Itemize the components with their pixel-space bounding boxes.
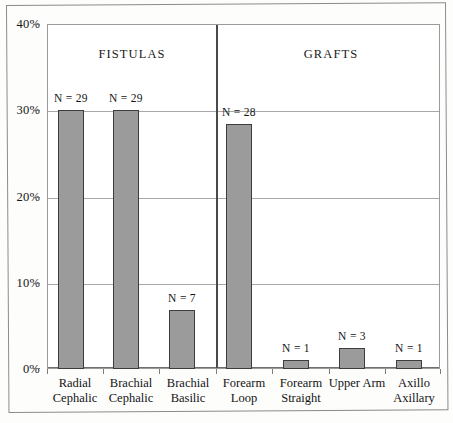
x-tick-4 (272, 369, 273, 374)
chart-figure: 40% 30% 20% 10% 0% FISTULAS GRAFTS N = 2… (0, 0, 453, 423)
x-category-label-brachial-basilic: Brachial Basilic (167, 376, 209, 406)
y-tick-mark-0 (33, 368, 40, 369)
x-category-line-1: Brachial (167, 376, 209, 391)
x-category-label-brachial-cephalic: Brachial Cephalic (109, 376, 153, 406)
data-label-axillo-axillary: N = 1 (395, 342, 423, 354)
bar-upper-arm (339, 348, 365, 369)
x-tick-6 (385, 369, 386, 374)
bar-axillo-axillary (396, 360, 422, 369)
x-category-line-1: Upper Arm (329, 376, 386, 391)
x-category-line-1: Radial (53, 376, 97, 391)
y-tick-mark-40 (33, 24, 40, 25)
x-category-label-upper-arm: Upper Arm (329, 376, 386, 391)
x-category-line-2: Basilic (167, 391, 209, 406)
group-title-grafts: GRAFTS (304, 47, 359, 62)
bar-forearm-loop (226, 124, 252, 369)
x-tick-5 (329, 369, 330, 374)
bar-brachial-basilic (169, 310, 195, 369)
data-label-brachial-basilic: N = 7 (168, 292, 196, 304)
bar-brachial-cephalic (113, 110, 139, 369)
x-tick-3 (216, 369, 217, 374)
x-category-label-axillo-axillary: Axillo Axillary (393, 376, 435, 406)
x-category-line-2: Cephalic (53, 391, 97, 406)
x-tick-7 (440, 369, 441, 374)
x-category-label-forearm-straight: Forearm Straight (280, 376, 322, 406)
y-tick-mark-20 (33, 197, 40, 198)
x-category-label-radial-cephalic: Radial Cephalic (53, 376, 97, 406)
x-tick-2 (159, 369, 160, 374)
x-category-label-forearm-loop: Forearm Loop (223, 376, 265, 406)
bar-forearm-straight (283, 360, 309, 369)
x-category-line-2: Straight (280, 391, 322, 406)
x-category-line-1: Brachial (109, 376, 153, 391)
y-tick-label-0: 0% (23, 362, 40, 377)
x-tick-0 (47, 369, 48, 374)
data-label-forearm-loop: N = 28 (222, 106, 256, 118)
group-divider (216, 25, 218, 368)
x-category-line-2: Cephalic (109, 391, 153, 406)
y-tick-mark-30 (33, 110, 40, 111)
data-label-upper-arm: N = 3 (338, 330, 366, 342)
group-title-fistulas: FISTULAS (98, 47, 165, 62)
x-tick-1 (103, 369, 104, 374)
data-label-radial-cephalic: N = 29 (54, 92, 88, 104)
y-axis: 40% 30% 20% 10% 0% (0, 24, 40, 369)
x-category-line-1: Forearm (223, 376, 265, 391)
x-category-line-1: Axillo (393, 376, 435, 391)
x-category-line-2: Loop (223, 391, 265, 406)
data-label-brachial-cephalic: N = 29 (109, 92, 143, 104)
bar-radial-cephalic (58, 110, 84, 369)
x-category-line-2: Axillary (393, 391, 435, 406)
x-category-line-1: Forearm (280, 376, 322, 391)
y-tick-mark-10 (33, 283, 40, 284)
data-label-forearm-straight: N = 1 (282, 342, 310, 354)
